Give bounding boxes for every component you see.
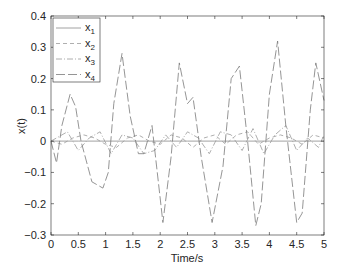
y-tick-label: 0 (40, 135, 46, 147)
y-tick-label: 0.1 (31, 104, 46, 116)
x-tick-label: 0.5 (71, 238, 86, 250)
y-tick-label: 0.3 (31, 41, 46, 53)
x-tick-label: 3 (212, 238, 218, 250)
x-axis-label: Time/s (171, 252, 204, 264)
x-tick-label: 3.5 (234, 238, 249, 250)
y-tick-label: 0.2 (31, 73, 46, 85)
y-tick-label: −0.2 (24, 198, 46, 210)
x-tick-label: 2.5 (180, 238, 195, 250)
line-chart: 00.511.522.533.544.55 −0.3−0.2−0.100.10.… (0, 0, 344, 272)
x-tick-label: 5 (321, 238, 327, 250)
x-tick-label: 4.5 (289, 238, 304, 250)
chart-background (0, 0, 344, 272)
x-tick-label: 1.5 (125, 238, 140, 250)
y-axis-label: x(t) (15, 118, 27, 134)
y-tick-label: 0.4 (31, 10, 46, 22)
legend: x1x2x3x4 (53, 18, 100, 83)
x-tick-label: 4 (266, 238, 272, 250)
x-tick-label: 1 (103, 238, 109, 250)
x-tick-label: 0 (48, 238, 54, 250)
y-tick-label: −0.1 (24, 166, 46, 178)
x-tick-label: 2 (157, 238, 163, 250)
y-tick-label: −0.3 (24, 229, 46, 241)
